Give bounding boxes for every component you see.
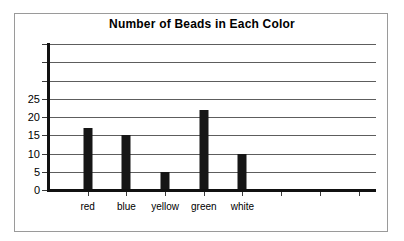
gridline <box>49 172 376 173</box>
gridline <box>49 135 376 136</box>
gridline <box>49 62 376 63</box>
x-axis-label-green: green <box>191 201 217 212</box>
x-axis-label-yellow: yellow <box>151 201 179 212</box>
y-axis-tick-label: 0 <box>34 184 40 196</box>
chart-title: Number of Beads in Each Color <box>15 17 389 31</box>
bar-red <box>83 128 92 190</box>
y-axis-tick-label: 10 <box>28 148 40 160</box>
x-axis-line <box>47 189 376 192</box>
y-axis-tick-label: 5 <box>34 166 40 178</box>
chart-frame: Number of Beads in Each Color 0510152025… <box>14 13 388 232</box>
gridline <box>49 99 376 100</box>
bar-white <box>238 154 247 191</box>
x-axis-label-blue: blue <box>117 201 136 212</box>
gridline <box>49 117 376 118</box>
gridline <box>49 44 376 45</box>
bar-yellow <box>161 172 170 190</box>
y-axis-tick-label: 20 <box>28 111 40 123</box>
bar-green <box>199 110 208 190</box>
bar-blue <box>122 135 131 190</box>
gridline <box>49 81 376 82</box>
y-axis-tick-label: 15 <box>28 129 40 141</box>
gridline <box>49 154 376 155</box>
y-axis-line <box>47 43 50 191</box>
x-axis-label-white: white <box>231 201 254 212</box>
plot-area: 0510152025 redblueyellowgreenwhite <box>49 44 376 190</box>
x-axis-label-red: red <box>80 201 94 212</box>
y-axis-tick-label: 25 <box>28 93 40 105</box>
